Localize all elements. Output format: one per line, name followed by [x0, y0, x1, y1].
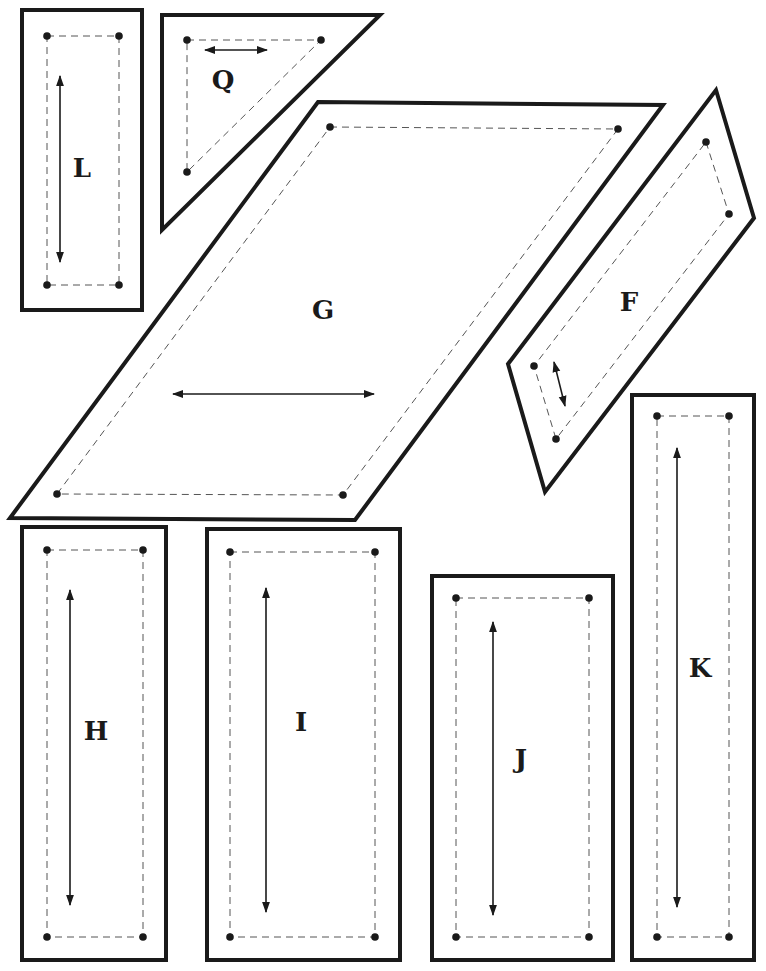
corner-dot-icon [115, 281, 123, 289]
corner-dot-icon [702, 138, 710, 146]
corner-dot-icon [725, 412, 733, 420]
corner-dot-icon [614, 125, 622, 133]
piece-label: G [312, 295, 334, 325]
piece-label: Q [212, 65, 235, 95]
corner-dot-icon [226, 933, 234, 941]
piece-label: J [513, 744, 527, 774]
corner-dot-icon [371, 548, 379, 556]
corner-dot-icon [53, 490, 61, 498]
corner-dot-icon [139, 546, 147, 554]
corner-dot-icon [326, 123, 334, 131]
corner-dot-icon [452, 594, 460, 602]
corner-dot-icon [653, 933, 661, 941]
corner-dot-icon [552, 435, 560, 443]
piece-label: L [73, 153, 91, 183]
corner-dot-icon [371, 933, 379, 941]
piece-label: F [620, 287, 639, 317]
piece-label: I [295, 707, 307, 737]
corner-dot-icon [226, 548, 234, 556]
corner-dot-icon [585, 594, 593, 602]
corner-dot-icon [452, 933, 460, 941]
pattern-pieces: LQGFHIJK [10, 10, 754, 960]
pattern-sheet: LQGFHIJK [0, 0, 766, 971]
piece-label: H [84, 716, 109, 746]
corner-dot-icon [725, 933, 733, 941]
pattern-piece-j: J [432, 576, 613, 960]
corner-dot-icon [530, 362, 538, 370]
corner-dot-icon [183, 36, 191, 44]
corner-dot-icon [339, 491, 347, 499]
corner-dot-icon [43, 32, 51, 40]
pattern-piece-i: I [207, 529, 400, 960]
pattern-piece-l: L [22, 10, 142, 310]
corner-dot-icon [43, 546, 51, 554]
piece-label: K [689, 653, 713, 683]
cutting-line [207, 529, 400, 960]
pattern-piece-k: K [632, 395, 754, 960]
corner-dot-icon [115, 32, 123, 40]
corner-dot-icon [653, 412, 661, 420]
corner-dot-icon [183, 168, 191, 176]
corner-dot-icon [43, 933, 51, 941]
pattern-piece-h: H [22, 527, 166, 960]
corner-dot-icon [585, 933, 593, 941]
corner-dot-icon [725, 210, 733, 218]
corner-dot-icon [139, 933, 147, 941]
corner-dot-icon [317, 36, 325, 44]
corner-dot-icon [43, 281, 51, 289]
